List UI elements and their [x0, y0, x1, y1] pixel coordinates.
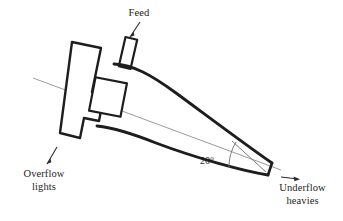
apex-spigot: [268, 163, 272, 175]
overflow-lights-label: Overflow lights: [2, 168, 86, 193]
cone-angle-value: 20: [200, 155, 210, 166]
underflow-heavies-label: Underflow heavies: [262, 182, 343, 207]
degree-symbol: o: [210, 154, 214, 162]
diagram-canvas: Feed Overflow lights Underflow heavies 2…: [0, 0, 343, 221]
cone-angle-label: 20o: [200, 152, 236, 168]
underflow-arrow: [281, 177, 300, 182]
vortex-finder-block: [89, 77, 127, 116]
cone-upper-wall: [114, 64, 272, 163]
feed-label: Feed: [108, 7, 170, 20]
overflow-arrow: [47, 147, 57, 164]
feed-arrow: [130, 22, 140, 37]
